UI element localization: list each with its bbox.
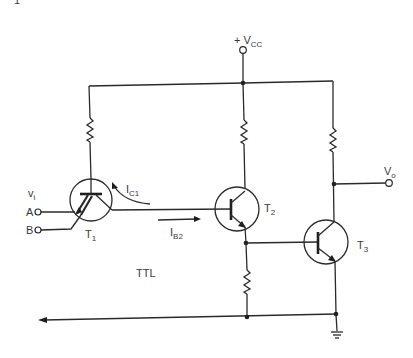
resistor-r1 [87, 86, 93, 179]
ttl-circuit-diagram: 1 + VCC Vo T1 [0, 0, 413, 358]
t2-t3-link [246, 242, 318, 243]
diagram-title: TTL [136, 267, 156, 279]
t3-label: T3 [357, 239, 369, 254]
ib2-label: IB2 [170, 226, 183, 241]
vcc-rail [89, 81, 333, 86]
input-a-label: A [26, 206, 34, 218]
ib2-current-arrow: IB2 [158, 216, 201, 241]
input-pins: vi A B [26, 187, 81, 236]
input-a-terminal [35, 209, 41, 215]
resistor-r4 [244, 243, 250, 317]
transistor-t1: T1 [70, 179, 112, 243]
vo-label: Vo [384, 165, 396, 180]
resistor-r2 [241, 83, 247, 189]
resistor-r3 [330, 81, 336, 222]
vcc-label: + VCC [234, 34, 263, 49]
vcc-terminal: + VCC [234, 34, 263, 83]
input-b-terminal [35, 227, 41, 233]
t2-label: T2 [264, 202, 276, 217]
transistor-t2: T2 [215, 187, 276, 243]
input-b-label: B [26, 224, 33, 236]
vi-label: vi [28, 187, 36, 202]
vcc-terminal-circle [240, 47, 247, 54]
ic1-label: IC1 [126, 183, 140, 198]
output-terminal-circle [386, 180, 393, 187]
t1-t2-link [112, 209, 231, 210]
cropped-corner-glyph: 1 [14, 0, 20, 6]
ground-icon [331, 332, 343, 338]
t1-label: T1 [85, 228, 97, 243]
output-terminal: Vo [332, 165, 397, 186]
ic1-current-arrow: IC1 [112, 182, 150, 204]
ground-rail [38, 312, 338, 331]
transistor-t3: T3 [304, 220, 369, 314]
